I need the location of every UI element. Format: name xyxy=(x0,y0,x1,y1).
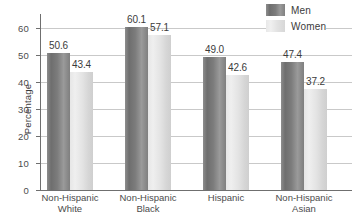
y-tick-40: 40 xyxy=(36,82,40,83)
bar-women-1[interactable]: 57.1 xyxy=(148,35,171,190)
bar-men-3[interactable]: 47.4 xyxy=(281,62,304,190)
legend: Men Women xyxy=(266,4,326,32)
gridline-50 xyxy=(40,55,352,56)
bar-value-women-3: 37.2 xyxy=(306,76,325,87)
bar-value-women-2: 42.6 xyxy=(228,62,247,73)
bar-women-0[interactable]: 43.4 xyxy=(70,72,93,190)
bar-value-men-0: 50.6 xyxy=(49,40,68,51)
y-axis-title: Percentage xyxy=(22,84,33,135)
y-tick-60: 60 xyxy=(36,28,40,29)
y-axis-line xyxy=(40,14,41,190)
bar-value-women-0: 43.4 xyxy=(72,59,91,70)
category-label-2: Hispanic xyxy=(191,192,261,203)
y-tick-20: 20 xyxy=(36,136,40,137)
bar-women-2[interactable]: 42.6 xyxy=(226,75,249,190)
bar-value-men-1: 60.1 xyxy=(127,14,146,25)
legend-label-men: Men xyxy=(291,5,311,16)
y-tick-50: 50 xyxy=(36,55,40,56)
y-tick-0: 0 xyxy=(36,190,40,191)
bar-value-women-1: 57.1 xyxy=(150,22,169,33)
y-tick-label-50: 50 xyxy=(18,49,29,60)
plot-area: 60 50 40 30 20 10 0 50.6 43.4 60.1 xyxy=(40,14,352,190)
category-label-0: Non-Hispanic White xyxy=(35,192,105,214)
bar-women-3[interactable]: 37.2 xyxy=(304,89,327,190)
y-tick-30: 30 xyxy=(36,109,40,110)
legend-swatch-men-icon xyxy=(266,4,285,16)
category-label-1: Non-Hispanic Black xyxy=(113,192,183,214)
bar-value-men-3: 47.4 xyxy=(283,49,302,60)
category-label-3: Non-Hispanic Asian xyxy=(269,192,339,214)
y-tick-10: 10 xyxy=(36,163,40,164)
bar-men-0[interactable]: 50.6 xyxy=(47,53,70,190)
bar-chart: 60 50 40 30 20 10 0 50.6 43.4 60.1 xyxy=(0,0,358,218)
y-tick-label-60: 60 xyxy=(18,22,29,33)
bar-men-1[interactable]: 60.1 xyxy=(125,27,148,190)
legend-item-women[interactable]: Women xyxy=(266,20,326,32)
bar-value-men-2: 49.0 xyxy=(205,44,224,55)
y-tick-label-0: 0 xyxy=(24,185,29,196)
y-tick-label-10: 10 xyxy=(18,157,29,168)
legend-label-women: Women xyxy=(291,21,326,32)
legend-swatch-women-icon xyxy=(266,20,285,32)
bar-men-2[interactable]: 49.0 xyxy=(203,57,226,190)
x-axis-line xyxy=(40,190,352,191)
legend-item-men[interactable]: Men xyxy=(266,4,326,16)
